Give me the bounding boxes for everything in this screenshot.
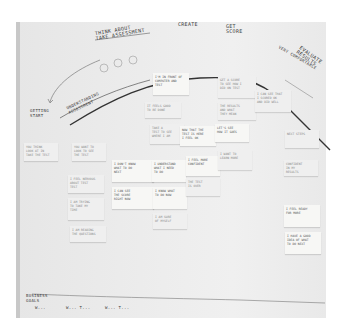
- sticky-note: I UNDERSTAND WHAT I NEED TO DO: [152, 160, 186, 182]
- sticky-note: I WANT TO LEARN MORE: [218, 150, 252, 170]
- sticky-note: NOW THAT THE TEST IS HERE I FEEL OK: [180, 126, 216, 146]
- heading-create: CREATE: [178, 22, 198, 27]
- footer-item: W...: [35, 305, 46, 310]
- sticky-note: THE RESULTS AND WHAT THEY MEAN: [218, 102, 256, 120]
- heading-getting-start: GETTING START: [30, 108, 49, 118]
- sticky-note: GET A SCORE TO SEE HOW I DID ON TEST: [218, 76, 256, 98]
- footer-item: W... T...: [66, 305, 90, 310]
- sticky-note: I HAVE A GOOD IDEA OF WHAT TO DO NEXT: [285, 232, 321, 254]
- sticky-note: CONFIDENT IN MY RESULTS: [284, 160, 318, 176]
- sticky-note: I'M IN FRONT OF COMPUTER AND TEST: [153, 73, 189, 95]
- sticky-note: I CAN SEE THE SCORE RIGHT NOW: [112, 187, 154, 209]
- sticky-note: I FEEL NERVOUS ABOUT TEST TEST: [68, 175, 104, 193]
- sticky-note: I AM TRYING TO TAKE MY TIME: [68, 198, 104, 220]
- sticky-note: YOU WANT TO LOOK TO SEE THE TEST: [72, 143, 106, 161]
- sticky-note: I FEEL READY FOR MORE: [284, 205, 320, 227]
- sticky-note: I FEEL MORE CONFIDENT: [186, 156, 220, 176]
- sticky-note: TAKE A TEST TO SEE WHERE I AM: [150, 124, 184, 144]
- sticky-note: LET'S SEE HOW IT GOES: [215, 124, 249, 142]
- sticky-note: I AM READING THE QUESTIONS: [70, 226, 106, 242]
- footer-item: W... T...: [105, 305, 129, 310]
- sticky-note: IT FEELS GOOD TO BE DONE: [145, 102, 181, 118]
- sticky-note: I AM SURE OF MYSELF: [153, 213, 187, 229]
- sticky-note: I KNOW WHAT TO DO NOW: [153, 187, 187, 209]
- sticky-note: I CAN SEE THAT I SCORED OK AND DID WELL: [255, 90, 291, 112]
- sticky-note: YOU THINK LOOK AT IN TAKE THE TEST: [24, 143, 58, 161]
- heading-get-score: GET SCORE: [226, 24, 243, 34]
- sticky-note: NEXT STEPS: [285, 130, 319, 148]
- footer-section-label: BUSINESS GOALS: [26, 293, 48, 303]
- sticky-note: THE TEST IS OVER: [186, 178, 220, 196]
- sticky-note: I DON'T KNOW WHAT TO DO NEXT: [112, 160, 154, 182]
